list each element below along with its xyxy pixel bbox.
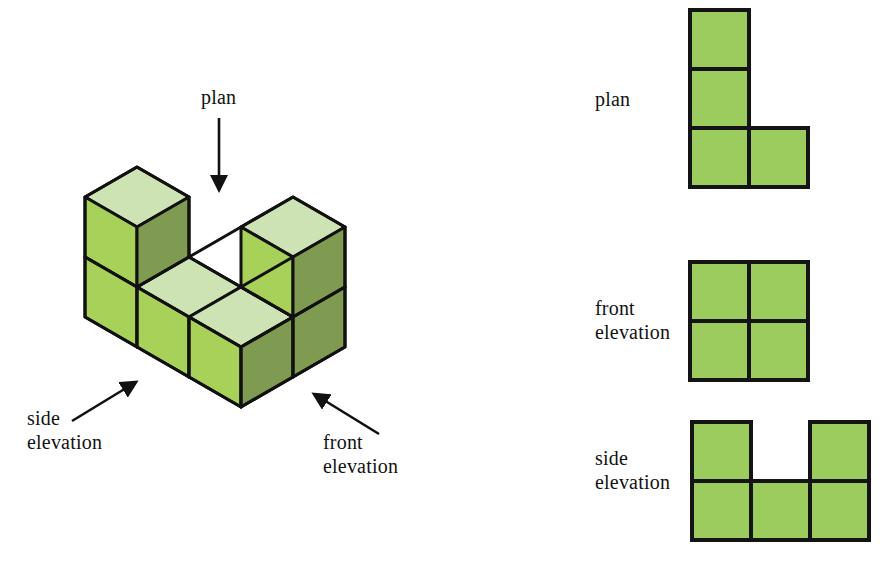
plan-cell xyxy=(690,10,749,69)
iso-label-side-line2: elevation xyxy=(27,430,102,454)
side-elevation-view xyxy=(687,417,887,552)
front-elevation-arrow xyxy=(314,394,379,434)
ortho-label-front-line2: elevation xyxy=(595,320,670,344)
ortho-label-front-line1: front xyxy=(595,296,670,320)
plan-view-svg xyxy=(685,5,875,200)
side-elevation-cell xyxy=(751,481,810,540)
side-elevation-cell xyxy=(692,422,751,481)
figure-canvas: plan side elevation front elevation plan… xyxy=(0,0,893,564)
ortho-label-plan-line1: plan xyxy=(595,88,630,111)
front-elevation-cell xyxy=(749,262,808,321)
side-elevation-cell xyxy=(810,422,869,481)
front-elevation-cell xyxy=(690,262,749,321)
plan-cell xyxy=(749,128,808,187)
side-elevation-cell xyxy=(692,481,751,540)
ortho-label-side-elevation: side elevation xyxy=(595,446,670,494)
plan-view xyxy=(685,5,875,200)
ortho-label-front-elevation: front elevation xyxy=(595,296,670,344)
iso-label-side-line1: side xyxy=(27,406,102,430)
ortho-label-side-line1: side xyxy=(595,446,670,470)
front-elevation-view xyxy=(685,257,875,392)
plan-cell xyxy=(690,128,749,187)
front-elevation-cell xyxy=(749,321,808,380)
iso-label-plan-text: plan xyxy=(201,86,236,108)
iso-label-plan: plan xyxy=(201,86,236,109)
iso-label-side-elevation: side elevation xyxy=(27,406,102,454)
ortho-label-plan: plan xyxy=(595,88,630,111)
iso-label-front-line1: front xyxy=(323,430,398,454)
iso-label-front-line2: elevation xyxy=(323,454,398,478)
iso-label-front-elevation: front elevation xyxy=(323,430,398,478)
ortho-label-side-line2: elevation xyxy=(595,470,670,494)
side-elevation-svg xyxy=(687,417,887,552)
plan-cell xyxy=(690,69,749,128)
front-elevation-cell xyxy=(690,321,749,380)
front-elevation-svg xyxy=(685,257,875,392)
side-elevation-cell xyxy=(810,481,869,540)
